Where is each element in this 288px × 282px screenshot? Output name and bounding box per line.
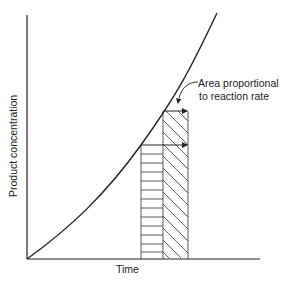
axes bbox=[27, 15, 260, 259]
reaction-rate-diagram: Area proportional to reaction rate Time … bbox=[0, 0, 288, 282]
y-axis-label: Product concentration bbox=[7, 95, 19, 197]
annotation-line-1: Area proportional bbox=[198, 77, 279, 89]
x-axis-label: Time bbox=[116, 263, 139, 275]
annotation-line-2: to reaction rate bbox=[199, 90, 269, 102]
product-curve bbox=[27, 13, 217, 259]
right-bar-diagonal-hatch bbox=[141, 96, 188, 277]
left-bar-horizontal-hatch bbox=[141, 111, 163, 259]
